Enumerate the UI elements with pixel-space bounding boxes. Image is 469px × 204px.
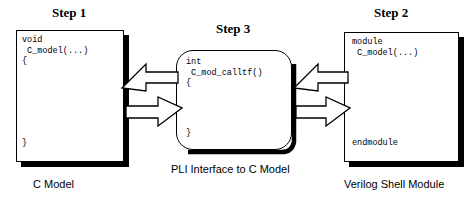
arrow-verilog-to-center bbox=[294, 64, 348, 91]
caption-verilog-shell: Verilog Shell Module bbox=[344, 178, 444, 190]
caption-c-model: C Model bbox=[33, 178, 74, 190]
arrow-center-to-c-model bbox=[122, 64, 178, 91]
caption-pli-interface: PLI Interface to C Model bbox=[171, 163, 290, 175]
arrow-center-to-verilog bbox=[296, 97, 350, 126]
arrow-c-model-to-center bbox=[126, 97, 182, 126]
diagram-canvas: Step 1 Step 3 Step 2 void C_model(...) {… bbox=[0, 0, 469, 204]
